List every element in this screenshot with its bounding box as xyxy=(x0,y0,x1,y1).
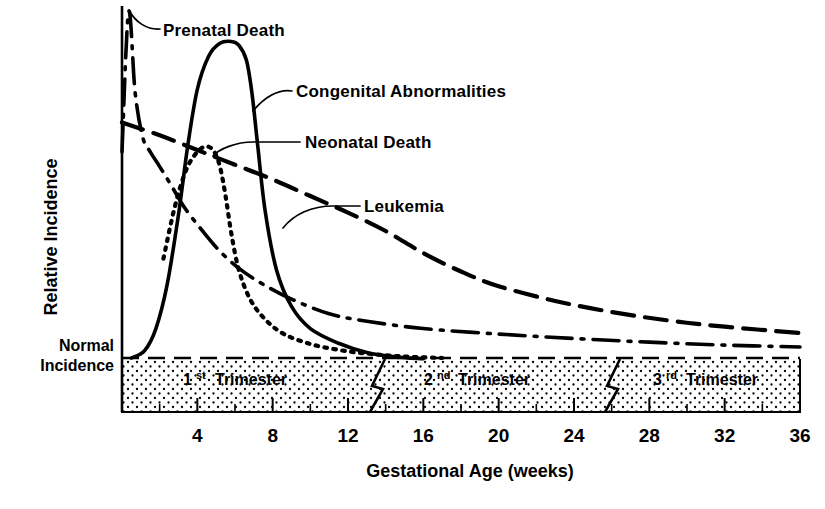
annotation-prenatal-death: Prenatal Death xyxy=(163,21,285,40)
x-axis-tick-label: 8 xyxy=(267,425,278,446)
y-axis-title: Relative Incidence xyxy=(41,158,61,315)
trimester-1-number: 1 xyxy=(183,371,192,388)
trimester-1-superscript: st xyxy=(196,369,206,381)
trimester-2-superscript: nd xyxy=(437,369,450,381)
annotation-neonatal-death: Neonatal Death xyxy=(305,133,432,152)
trimester-3-word: Trimester xyxy=(686,371,758,388)
trimester-2-word: Trimester xyxy=(458,371,530,388)
x-axis-title: Gestational Age (weeks) xyxy=(366,461,573,481)
normal-incidence-line2: Incidence xyxy=(40,357,114,374)
x-axis-tick-label: 28 xyxy=(639,425,660,446)
trimester-3-superscript: rd xyxy=(666,369,677,381)
trimester-3-number: 3 xyxy=(653,371,662,388)
x-axis-tick-label: 12 xyxy=(337,425,358,446)
x-axis-tick-label: 16 xyxy=(413,425,434,446)
chart-svg: 1 st Trimester 2 nd Trimester 3 rd Trime… xyxy=(0,0,825,509)
annotation-leukemia: Leukemia xyxy=(364,197,444,216)
annotation-congenital-abnormalities: Congenital Abnormalities xyxy=(296,82,506,101)
x-axis-tick-label: 32 xyxy=(714,425,735,446)
x-axis-tick-label: 36 xyxy=(789,425,810,446)
trimester-1-word: Trimester xyxy=(215,371,287,388)
x-axis-tick-label: 24 xyxy=(563,425,585,446)
chart-figure: 1 st Trimester 2 nd Trimester 3 rd Trime… xyxy=(0,0,825,509)
x-axis-tick-label: 4 xyxy=(192,425,203,446)
x-axis-tick-label: 20 xyxy=(488,425,509,446)
normal-incidence-line1: Normal xyxy=(59,337,114,354)
trimester-2-number: 2 xyxy=(424,371,433,388)
